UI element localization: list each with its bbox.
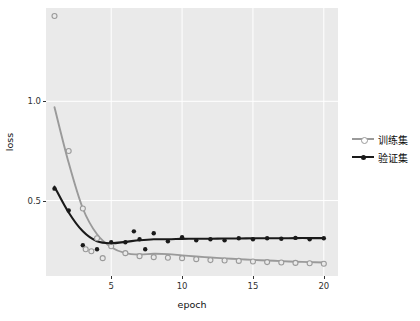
x-tick-label: 15 bbox=[248, 281, 259, 291]
legend-swatch-validation bbox=[352, 152, 374, 162]
y-tick-label: 1.0 bbox=[18, 96, 41, 106]
data-point-train bbox=[321, 261, 326, 266]
data-point-train bbox=[222, 258, 227, 263]
data-point-train bbox=[293, 260, 298, 265]
legend-item-train[interactable]: 训练集 bbox=[352, 130, 418, 148]
data-point-train bbox=[236, 258, 241, 263]
chart-canvas bbox=[46, 8, 338, 276]
x-tick-mark bbox=[324, 276, 325, 279]
x-tick-label: 20 bbox=[318, 281, 329, 291]
data-point-train bbox=[109, 244, 114, 249]
data-point-validation bbox=[95, 247, 99, 251]
data-point-validation bbox=[66, 208, 70, 212]
data-point-train bbox=[165, 255, 170, 260]
data-point-train bbox=[123, 251, 128, 256]
data-point-train bbox=[137, 254, 142, 259]
y-axis-title: loss bbox=[4, 133, 15, 151]
data-point-train bbox=[52, 13, 57, 18]
data-point-validation bbox=[307, 237, 311, 241]
x-tick-label: 5 bbox=[108, 281, 113, 291]
x-tick-mark bbox=[111, 276, 112, 279]
data-point-validation bbox=[279, 236, 283, 240]
data-point-validation bbox=[109, 240, 113, 244]
x-tick-mark bbox=[182, 276, 183, 279]
trend-line-validation bbox=[55, 187, 324, 244]
data-point-validation bbox=[123, 240, 127, 244]
data-point-validation bbox=[152, 231, 156, 235]
data-point-train bbox=[307, 261, 312, 266]
data-point-validation bbox=[293, 236, 297, 240]
data-point-validation bbox=[166, 239, 170, 243]
data-point-validation bbox=[132, 229, 136, 233]
data-point-train bbox=[194, 257, 199, 262]
data-point-train bbox=[151, 255, 156, 260]
x-axis-title: epoch bbox=[178, 299, 207, 310]
legend: 训练集 验证集 bbox=[352, 130, 418, 166]
data-point-validation bbox=[143, 247, 147, 251]
y-tick-label: 0.5 bbox=[18, 196, 41, 206]
y-tick-mark bbox=[43, 101, 46, 102]
data-point-train bbox=[265, 260, 270, 265]
data-point-train bbox=[89, 249, 94, 254]
data-point-validation bbox=[180, 235, 184, 239]
data-point-train bbox=[180, 256, 185, 261]
data-point-train bbox=[208, 258, 213, 263]
data-point-validation bbox=[265, 236, 269, 240]
data-point-validation bbox=[237, 236, 241, 240]
data-point-train bbox=[100, 256, 105, 261]
legend-label-validation: 验证集 bbox=[378, 150, 408, 165]
data-point-train bbox=[279, 260, 284, 265]
data-point-validation bbox=[52, 186, 56, 190]
data-point-validation bbox=[222, 238, 226, 242]
data-point-validation bbox=[208, 237, 212, 241]
data-point-validation bbox=[251, 237, 255, 241]
legend-swatch-train bbox=[352, 134, 374, 144]
data-point-validation bbox=[137, 237, 141, 241]
x-tick-mark bbox=[253, 276, 254, 279]
data-point-train bbox=[80, 206, 85, 211]
plot-area bbox=[46, 8, 338, 276]
data-point-train bbox=[66, 148, 71, 153]
data-point-train bbox=[83, 247, 88, 252]
data-point-train bbox=[250, 259, 255, 264]
legend-label-train: 训练集 bbox=[378, 132, 408, 147]
data-point-validation bbox=[194, 238, 198, 242]
data-point-validation bbox=[322, 236, 326, 240]
x-tick-label: 10 bbox=[177, 281, 188, 291]
data-point-train bbox=[95, 236, 100, 241]
y-tick-mark bbox=[43, 201, 46, 202]
chart-root: 51015200.51.0 epoch loss 训练集 验证集 bbox=[0, 0, 420, 321]
legend-item-validation[interactable]: 验证集 bbox=[352, 148, 418, 166]
